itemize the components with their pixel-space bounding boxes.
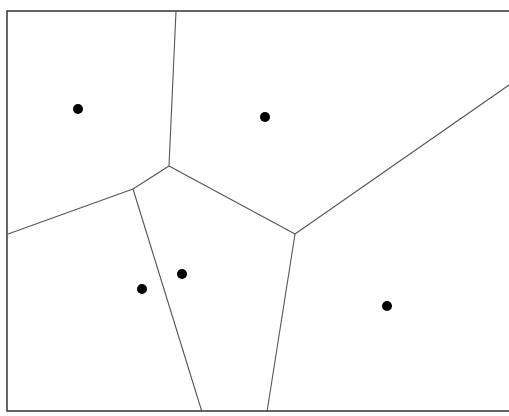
voronoi-sites	[73, 104, 392, 311]
frame-border	[7, 11, 509, 411]
voronoi-edge	[133, 166, 169, 189]
voronoi-edge	[8, 189, 133, 234]
voronoi-edge	[267, 234, 295, 412]
diagram-frame	[7, 11, 509, 411]
voronoi-edge	[133, 189, 202, 412]
voronoi-edge	[169, 11, 176, 166]
voronoi-edge	[295, 85, 509, 234]
site-point-site-5	[382, 301, 392, 311]
site-point-site-4	[137, 284, 147, 294]
site-point-site-2	[260, 112, 270, 122]
site-point-site-3	[177, 269, 187, 279]
voronoi-diagram	[0, 0, 509, 416]
voronoi-edges	[8, 11, 509, 412]
voronoi-edge	[169, 166, 295, 234]
site-point-site-1	[73, 104, 83, 114]
